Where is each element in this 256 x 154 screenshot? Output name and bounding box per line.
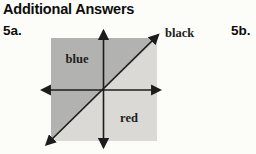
- red-region-label: red: [120, 111, 138, 125]
- answers-page: Additional Answers 5a. 5b. blue red blac…: [0, 0, 256, 154]
- diagonal-line-label: black: [165, 26, 194, 40]
- blue-region-label: blue: [66, 52, 89, 66]
- coordinate-plane-figure: blue red black: [0, 0, 256, 154]
